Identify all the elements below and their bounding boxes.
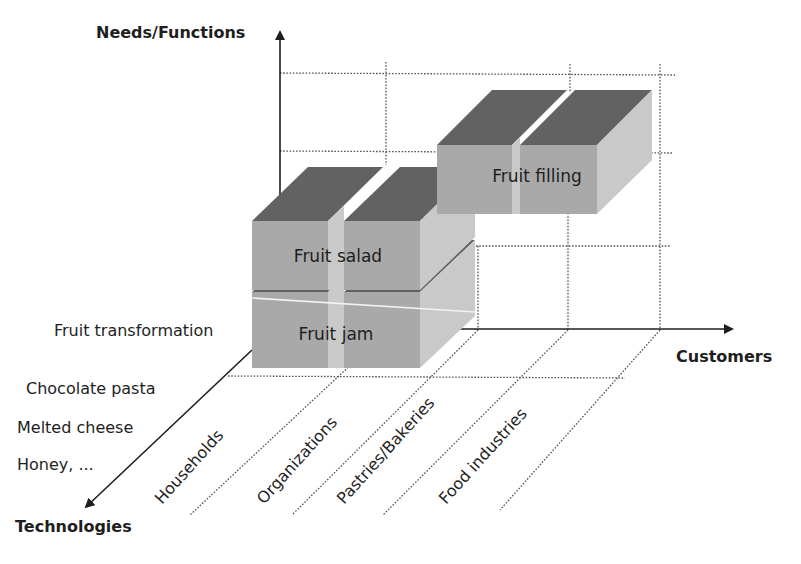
technology-item: Melted cheese [17,418,133,437]
axis-title-technologies: Technologies [15,517,132,536]
axis-title-needs: Needs/Functions [96,23,245,42]
customer-label: Food industries [435,404,531,507]
block-label-fruit-jam: Fruit jam [299,324,374,344]
technology-item: Honey, ... [17,455,94,474]
block-label-fruit-filling: Fruit filling [492,166,582,186]
block-fruit-filling [437,90,652,214]
block-label-fruit-salad: Fruit salad [294,246,382,266]
business-cube-diagram: Fruit salad Fruit jam Fruit filling Need… [0,0,801,564]
customer-label: Pastries/Bakeries [333,394,438,508]
technology-item: Fruit transformation [54,321,213,340]
technology-item: Chocolate pasta [26,379,156,398]
axis-title-customers: Customers [676,347,772,366]
customer-label: Households [151,426,227,508]
customer-label: Organizations [253,413,341,508]
